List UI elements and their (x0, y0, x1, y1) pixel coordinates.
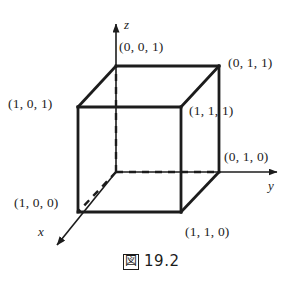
edge-top-right-diagonal (181, 66, 219, 107)
vertex-label-1-1-1: (1, 1, 1) (189, 104, 234, 118)
edge-top-left-diagonal (78, 66, 116, 107)
figure-caption: 図19.2 (0, 252, 302, 270)
vertex-label-0-1-0: (0, 1, 0) (224, 150, 269, 164)
vertex-label-1-0-0: (1, 0, 0) (14, 196, 59, 210)
axis-label-z: z (124, 18, 129, 31)
vertex-label-1-0-1: (1, 0, 1) (8, 97, 53, 111)
cube-edges (78, 66, 219, 212)
axis-label-y: y (268, 179, 274, 192)
figure-container: (0, 0, 1) (0, 1, 1) (1, 0, 1) (1, 1, 1) … (0, 0, 302, 284)
vertex-label-1-1-0: (1, 1, 0) (185, 225, 230, 239)
vertex-label-0-1-1: (0, 1, 1) (228, 56, 273, 70)
vertex-label-0-0-1: (0, 0, 1) (119, 40, 164, 54)
edge-bottom-right-diagonal (181, 172, 219, 212)
axis-label-x: x (38, 225, 44, 238)
caption-kanji-zu: 図 (123, 254, 140, 270)
caption-number: 19.2 (144, 252, 179, 270)
